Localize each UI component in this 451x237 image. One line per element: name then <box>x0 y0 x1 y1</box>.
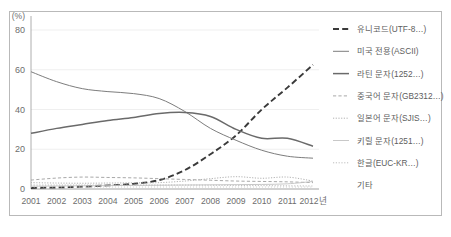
x-axis-tick-label: 2003 <box>73 196 92 206</box>
legend-item-label: 유니코드(UTF-8…) <box>357 24 427 34</box>
y-axis-unit-label: (%) <box>12 11 25 21</box>
x-axis-tick-label: 2002 <box>47 196 66 206</box>
y-axis-tick-label: 40 <box>15 105 25 115</box>
x-axis-tick-label: 2005 <box>124 196 143 206</box>
legend-item-label: 키릴 문자(1251…) <box>357 136 424 146</box>
y-axis-tick-label: 0 <box>20 184 25 194</box>
legend-item-label: 중국어 문자(GB2312…) <box>357 91 444 101</box>
x-axis-tick-label: 2004 <box>98 196 117 206</box>
x-axis-tick-label: 2009 <box>227 196 246 206</box>
y-axis-tick-label: 80 <box>15 25 25 35</box>
x-axis-tick-label: 2007 <box>175 196 194 206</box>
x-axis-tick-label: 2010 <box>252 196 271 206</box>
chart-figure: (%)0204060802001200220032004200520062007… <box>0 0 451 237</box>
series-line <box>31 177 313 184</box>
x-axis-tick-label: 2001 <box>21 196 40 206</box>
encoding-usage-line-chart: (%)0204060802001200220032004200520062007… <box>0 0 451 237</box>
x-axis-tick-label: 2012년 <box>299 196 326 206</box>
y-axis-tick-label: 20 <box>15 144 25 154</box>
legend-item-label: 기타 <box>357 180 373 190</box>
legend-item-label: 한글(EUC-KR…) <box>357 158 419 168</box>
x-axis-tick-label: 2008 <box>201 196 220 206</box>
series-line <box>31 72 313 158</box>
x-axis-tick-label: 2011 <box>278 196 297 206</box>
legend-item-label: 일본어 문자(SJIS…) <box>357 113 431 123</box>
x-axis-tick-label: 2006 <box>150 196 169 206</box>
y-axis-tick-label: 60 <box>15 65 25 75</box>
legend-item-label: 미국 전용(ASCII) <box>357 46 419 56</box>
series-line <box>31 112 313 146</box>
legend-item-label: 라틴 문자(1252…) <box>357 69 424 79</box>
